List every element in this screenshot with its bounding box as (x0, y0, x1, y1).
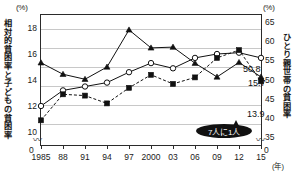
y2-tick-label: 40 (265, 113, 283, 123)
right-axis-unit: (%) (263, 3, 275, 12)
x-tick-mark (85, 145, 86, 149)
callout-bubble: 7人に1人 (196, 124, 252, 138)
y2-tick-label: 45 (265, 94, 283, 104)
callout-label: 7人に1人 (208, 126, 240, 137)
left-axis-break-icon: 〰 (33, 136, 42, 145)
y2-tick-label: 60 (265, 36, 283, 46)
chart-root: (%) (%) 相対的貧困率と子どもの貧困率 ひとり親世帯の貧困率 50.8 1… (0, 0, 294, 172)
x-tick-mark (41, 145, 42, 149)
left-axis-title: 相対的貧困率と子どもの貧困率 (2, 20, 13, 140)
x-tick-mark (173, 145, 174, 149)
gridline (41, 86, 261, 87)
y-tick-label: 12 (21, 101, 37, 111)
x-tick-mark (195, 145, 196, 149)
x-tick-label: 15 (248, 152, 274, 162)
gridline (41, 105, 261, 106)
y-tick-label: 16 (21, 49, 37, 59)
y-tick-label: 10 (21, 127, 37, 137)
y2-tick-label: 65 (265, 17, 283, 27)
value-label-relative: 15.7 (248, 78, 266, 88)
x-tick-mark (261, 145, 262, 149)
right-axis-break-icon: 〰 (256, 136, 265, 145)
y-tick-label: 18 (21, 23, 37, 33)
y2-tick-label: 50 (265, 75, 283, 85)
x-tick-mark (151, 145, 152, 149)
gridline (41, 48, 261, 49)
value-label-child: 13.9 (247, 109, 265, 119)
x-tick-mark (129, 145, 130, 149)
x-tick-mark (239, 145, 240, 149)
left-axis-unit: (%) (16, 3, 28, 12)
x-tick-mark (217, 145, 218, 149)
gridline (41, 29, 261, 30)
gridline (41, 67, 261, 68)
value-label-single-parent: 50.8 (243, 64, 261, 74)
y-tick-label: 14 (21, 75, 37, 85)
y2-tick-label: 35 (265, 132, 283, 142)
x-tick-mark (107, 145, 108, 149)
y2-tick-label: 55 (265, 55, 283, 65)
x-tick-mark (63, 145, 64, 149)
